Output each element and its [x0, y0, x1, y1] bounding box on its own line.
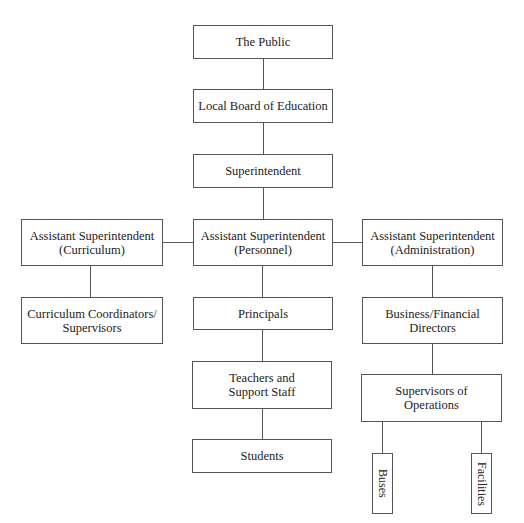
connector-public-board — [263, 58, 264, 90]
node-label-line1: Business/Financial — [385, 307, 479, 321]
node-supervisors-of-operations: Supervisors of Operations — [361, 374, 502, 422]
connector-operations-facilities — [481, 421, 482, 453]
node-label-line2: (Administration) — [370, 243, 495, 257]
node-students: Students — [192, 439, 332, 473]
node-label: Local Board of Education — [198, 99, 327, 113]
node-superintendent: Superintendent — [193, 154, 333, 188]
node-facilities: Facilities — [471, 453, 492, 514]
node-teachers-support-staff: Teachers and Support Staff — [192, 361, 332, 409]
node-label-line2: Support Staff — [229, 385, 296, 399]
node-label: The Public — [236, 35, 291, 49]
node-label: Principals — [238, 307, 288, 321]
node-label-line2: Directors — [385, 321, 479, 335]
connector-operations-buses — [382, 421, 383, 453]
node-asst-superintendent-personnel: Assistant Superintendent (Personnel) — [193, 219, 333, 266]
node-label-line2: Operations — [395, 398, 468, 412]
node-label-line1: Assistant Superintendent — [201, 229, 326, 243]
node-label-line1: Assistant Superintendent — [30, 229, 155, 243]
connector-administration-business — [432, 265, 433, 297]
node-label: Buses — [376, 469, 390, 498]
connector-teachers-students — [262, 408, 263, 440]
node-curriculum-coordinators: Curriculum Coordinators/ Supervisors — [21, 297, 163, 344]
connector-personnel-administration — [332, 242, 362, 243]
node-principals: Principals — [193, 297, 333, 330]
node-label-line1: Teachers and — [229, 371, 296, 385]
node-label-line2: Supervisors — [27, 321, 157, 335]
connector-curriculum-personnel — [162, 242, 193, 243]
node-label-line1: Assistant Superintendent — [370, 229, 495, 243]
node-label: Facilities — [475, 462, 489, 506]
node-label: Students — [240, 449, 283, 463]
node-asst-superintendent-curriculum: Assistant Superintendent (Curriculum) — [21, 219, 163, 266]
node-label-line2: (Curriculum) — [30, 243, 155, 257]
node-label-line1: Supervisors of — [395, 384, 468, 398]
node-business-financial-directors: Business/Financial Directors — [362, 297, 503, 344]
node-the-public: The Public — [193, 25, 333, 59]
node-label: Superintendent — [225, 164, 301, 178]
connector-principals-teachers — [262, 329, 263, 362]
connector-curriculum-coordinators — [90, 265, 91, 297]
node-buses: Buses — [372, 453, 393, 514]
connector-business-operations — [432, 343, 433, 375]
connector-board-superintendent — [263, 122, 264, 155]
node-asst-superintendent-administration: Assistant Superintendent (Administration… — [362, 219, 503, 266]
node-label-line2: (Personnel) — [201, 243, 326, 257]
connector-personnel-principals — [262, 265, 263, 297]
node-label-line1: Curriculum Coordinators/ — [27, 307, 157, 321]
node-local-board-of-education: Local Board of Education — [193, 89, 333, 123]
connector-superintendent-personnel — [263, 187, 264, 220]
